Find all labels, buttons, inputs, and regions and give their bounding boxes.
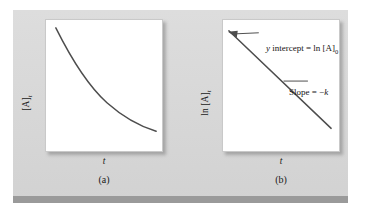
- y-axis-label-b-subscript: t: [205, 90, 212, 92]
- y-axis-label-a-text: [A]: [21, 97, 31, 111]
- plot-b-line-svg: [223, 20, 339, 151]
- annotation-slope-body: Slope = −: [289, 87, 324, 97]
- y-axis-label-b: ln [A]t: [201, 63, 211, 143]
- panel-caption-b: (b): [222, 175, 340, 185]
- annotation-slope: Slope = −k: [289, 88, 328, 97]
- annotation-y-intercept-subscript: 0: [335, 48, 338, 55]
- y-intercept-arrowhead-icon: [228, 31, 238, 38]
- plot-box-a: [45, 19, 163, 152]
- y-intercept-leader-line: [237, 33, 259, 34]
- x-axis-label-a: t: [45, 157, 163, 167]
- y-axis-label-b-text: ln [A]: [200, 92, 210, 116]
- plot-a-curve-svg: [46, 20, 162, 151]
- plot-group-b: ln [A]t y intercept = ln [A]0 Slope = −k…: [190, 10, 350, 195]
- panel-caption-a: (a): [45, 175, 163, 185]
- y-axis-label-a-subscript: t: [26, 95, 33, 97]
- exponential-decay-curve: [56, 28, 156, 131]
- y-axis-label-a: [A]t: [22, 63, 32, 143]
- annotation-y-intercept-body: intercept = ln [A]: [270, 43, 335, 53]
- annotation-y-intercept: y intercept = ln [A]0: [266, 44, 338, 53]
- plot-group-a: [A]t t (a): [13, 10, 173, 195]
- x-axis-label-b: t: [222, 157, 340, 167]
- figure-root: [A]t t (a) ln [A]t y intercept = ln [A]0…: [0, 0, 366, 218]
- panel-bottom-bar: [13, 196, 348, 203]
- annotation-slope-var: k: [324, 87, 328, 97]
- plot-box-b: y intercept = ln [A]0 Slope = −k: [222, 19, 340, 152]
